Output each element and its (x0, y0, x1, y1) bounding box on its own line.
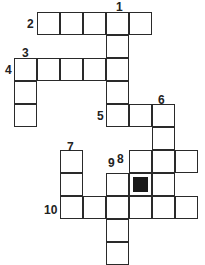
clue-number: 1 (116, 1, 123, 13)
crossword-cell[interactable] (106, 35, 129, 58)
clue-number: 6 (158, 94, 165, 106)
crossword-cell-blocked (129, 173, 152, 196)
crossword-cell[interactable] (83, 196, 106, 219)
crossword-cell[interactable] (106, 219, 129, 242)
crossword-cell[interactable] (129, 150, 152, 173)
crossword-cell[interactable] (60, 12, 83, 35)
crossword-cell[interactable] (14, 58, 37, 81)
clue-number: 4 (5, 64, 12, 76)
crossword-cell[interactable] (152, 173, 175, 196)
crossword-cell[interactable] (152, 127, 175, 150)
crossword-cell[interactable] (175, 196, 198, 219)
crossword-cell[interactable] (37, 12, 60, 35)
black-square (133, 177, 148, 192)
crossword-cell[interactable] (106, 104, 129, 127)
crossword-cell[interactable] (83, 58, 106, 81)
clue-number: 7 (67, 141, 74, 153)
clue-number: 5 (97, 110, 104, 122)
clue-number: 9 (108, 157, 115, 169)
crossword-cell[interactable] (60, 196, 83, 219)
crossword-cell[interactable] (152, 104, 175, 127)
crossword-cell[interactable] (106, 12, 129, 35)
clue-number: 3 (22, 47, 29, 59)
crossword-cell[interactable] (37, 58, 60, 81)
clue-number: 10 (44, 204, 57, 216)
crossword-cell[interactable] (129, 196, 152, 219)
crossword-cell[interactable] (106, 196, 129, 219)
crossword-cell[interactable] (106, 173, 129, 196)
crossword-cell[interactable] (106, 242, 129, 265)
crossword-cell[interactable] (14, 81, 37, 104)
crossword-cell[interactable] (106, 81, 129, 104)
crossword-cell[interactable] (129, 12, 152, 35)
clue-number: 2 (27, 18, 34, 30)
crossword-cell[interactable] (60, 173, 83, 196)
crossword-cell[interactable] (83, 12, 106, 35)
crossword-cell[interactable] (60, 58, 83, 81)
crossword-cell[interactable] (152, 150, 175, 173)
clue-number: 8 (117, 153, 124, 165)
crossword-cell[interactable] (129, 104, 152, 127)
crossword-cell[interactable] (175, 150, 198, 173)
crossword-cell[interactable] (106, 58, 129, 81)
crossword-cell[interactable] (152, 196, 175, 219)
crossword-cell[interactable] (14, 104, 37, 127)
